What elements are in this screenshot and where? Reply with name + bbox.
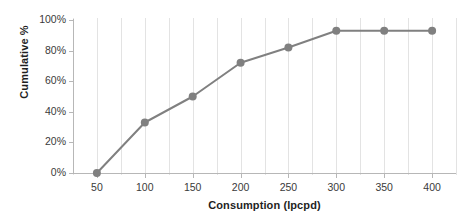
data-point-marker: [380, 27, 388, 35]
data-point-marker: [189, 93, 197, 101]
y-axis-title: Cumulative %: [18, 2, 30, 122]
series-markers: [93, 27, 436, 177]
data-point-marker: [332, 27, 340, 35]
series-polyline: [97, 31, 432, 173]
x-axis-title: Consumption (lpcpd): [73, 199, 456, 211]
data-point-marker: [284, 44, 292, 52]
data-point-marker: [93, 169, 101, 177]
cumulative-consumption-chart: 0%20%40%60%80%100% 501001502002503003504…: [0, 0, 468, 224]
data-point-marker: [428, 27, 436, 35]
data-series-line: [0, 0, 468, 224]
data-point-marker: [237, 59, 245, 67]
data-point-marker: [141, 119, 149, 127]
